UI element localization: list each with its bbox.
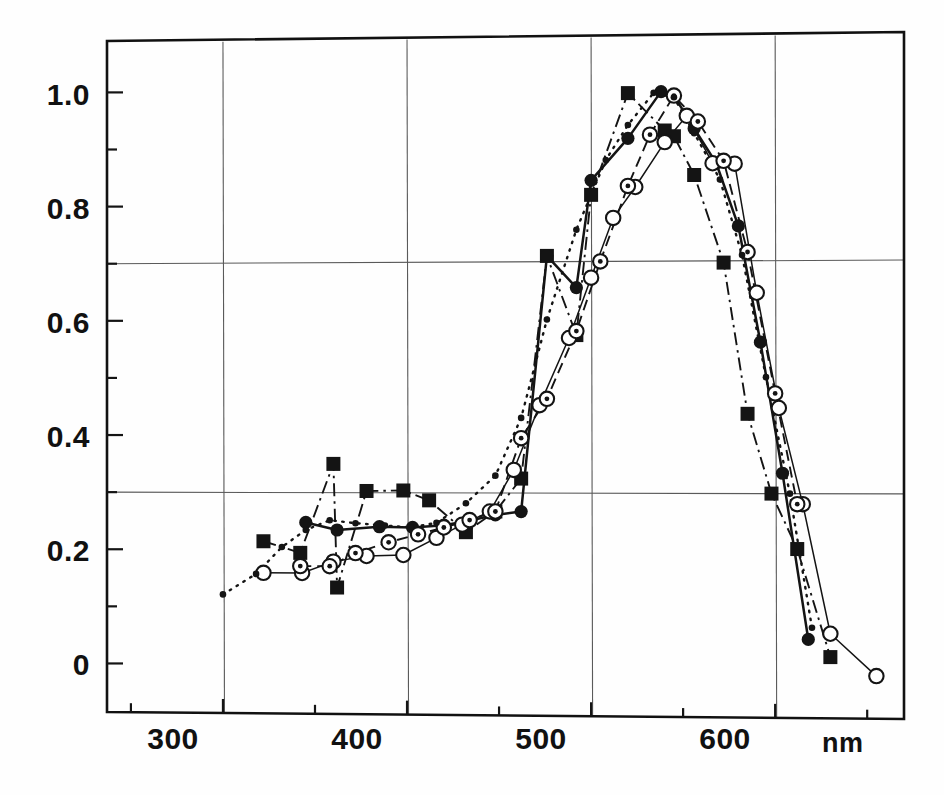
plot-frame	[107, 32, 904, 719]
marker-filled-square	[764, 487, 778, 501]
marker-dotted-circle-center	[545, 396, 550, 401]
marker-filled-square	[741, 407, 755, 421]
marker-open-circle	[658, 135, 672, 149]
marker-small-dot	[253, 571, 260, 578]
marker-dotted-circle-center	[695, 119, 700, 124]
marker-small-dot	[220, 591, 227, 598]
series-line-filled-square	[263, 93, 830, 657]
marker-open-circle	[507, 463, 521, 477]
marker-filled-square	[293, 546, 307, 560]
marker-filled-circle	[732, 219, 745, 232]
marker-filled-square	[687, 168, 701, 182]
marker-filled-circle	[570, 281, 583, 294]
marker-filled-square	[823, 650, 837, 664]
marker-dotted-circle-center	[519, 436, 524, 441]
marker-small-dot	[492, 472, 499, 479]
marker-dotted-circle-center	[626, 184, 631, 189]
gridline-vertical	[223, 42, 225, 713]
marker-open-circle	[823, 627, 837, 641]
marker-open-circle	[396, 548, 410, 562]
marker-filled-square	[396, 483, 410, 497]
marker-filled-circle	[515, 505, 528, 518]
marker-filled-square	[360, 484, 374, 498]
marker-small-dot	[809, 625, 816, 632]
marker-filled-circle	[330, 523, 343, 536]
gridline-vertical	[775, 35, 777, 717]
marker-small-dot	[787, 490, 794, 497]
axis-ticks	[107, 92, 867, 718]
marker-filled-square	[621, 86, 635, 100]
marker-open-circle	[869, 669, 883, 683]
marker-small-dot	[433, 520, 440, 527]
marker-dotted-circle-center	[467, 518, 472, 523]
marker-dotted-circle-center	[745, 250, 750, 255]
marker-small-dot	[407, 524, 414, 531]
marker-small-dot	[518, 415, 525, 422]
marker-filled-square	[584, 188, 598, 202]
marker-dotted-circle-center	[441, 525, 446, 530]
marker-dotted-circle-center	[493, 509, 498, 514]
marker-small-dot	[302, 527, 309, 534]
gridline-vertical	[407, 40, 409, 715]
marker-dotted-circle-center	[773, 391, 778, 396]
marker-filled-square	[326, 457, 340, 471]
marker-small-dot	[739, 252, 746, 259]
marker-small-dot	[717, 176, 724, 183]
series-line-open-circle	[263, 116, 876, 676]
series-lines	[223, 92, 876, 676]
marker-small-dot	[326, 517, 333, 524]
marker-filled-square	[422, 493, 436, 507]
series-line-small-dot	[223, 93, 812, 628]
marker-dotted-circle-center	[386, 540, 391, 545]
marker-open-circle	[750, 286, 764, 300]
marker-dotted-circle-center	[721, 158, 726, 163]
marker-small-dot	[671, 94, 678, 101]
frame-path	[107, 32, 904, 719]
marker-filled-circle	[621, 132, 634, 145]
marker-filled-circle	[540, 249, 553, 262]
marker-small-dot	[691, 130, 698, 137]
marker-small-dot	[573, 226, 580, 233]
marker-filled-square	[256, 534, 270, 548]
marker-filled-circle	[802, 633, 815, 646]
marker-filled-circle	[754, 336, 767, 349]
marker-small-dot	[544, 316, 551, 323]
plot-canvas	[0, 0, 944, 795]
marker-small-dot	[352, 520, 359, 527]
marker-small-dot	[625, 122, 632, 129]
marker-small-dot	[279, 544, 286, 551]
marker-small-dot	[763, 374, 770, 381]
marker-small-dot	[650, 90, 657, 97]
spectra-figure: 1.0 0.8 0.6 0.4 0.2 0 300 400 500 600 nm	[0, 0, 944, 795]
marker-open-circle	[584, 270, 598, 284]
marker-small-dot	[463, 500, 470, 507]
marker-dotted-circle-center	[298, 564, 303, 569]
marker-small-dot	[603, 157, 610, 164]
gridline-vertical	[591, 38, 593, 717]
marker-filled-square	[330, 581, 344, 595]
marker-filled-circle	[776, 467, 789, 480]
marker-dotted-circle-center	[327, 564, 332, 569]
marker-open-circle	[606, 211, 620, 225]
marker-dotted-circle-center	[795, 502, 800, 507]
gridline-horizontal	[107, 260, 904, 264]
marker-dotted-circle-center	[648, 132, 653, 137]
marker-small-dot	[382, 522, 389, 529]
series-markers	[220, 85, 884, 683]
marker-dotted-circle-center	[574, 329, 579, 334]
marker-filled-square	[790, 542, 804, 556]
gridlines	[107, 35, 904, 717]
marker-dotted-circle-center	[598, 259, 603, 264]
marker-filled-square	[717, 256, 731, 270]
marker-dotted-circle-center	[416, 532, 421, 537]
marker-filled-circle	[584, 174, 597, 187]
marker-open-circle	[772, 401, 786, 415]
marker-dotted-circle-center	[353, 551, 358, 556]
